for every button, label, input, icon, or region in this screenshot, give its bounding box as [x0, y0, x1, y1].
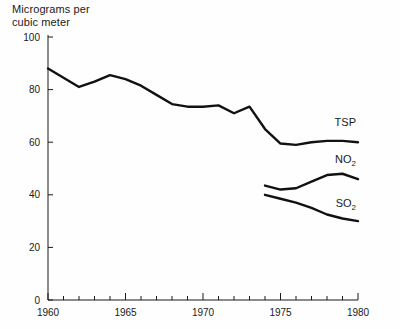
y-tick-label: 80 [29, 84, 41, 95]
series-line-tsp [48, 69, 358, 145]
axes-group [48, 35, 358, 300]
x-axis-tick-labels: 19601965197019751980 [37, 307, 370, 318]
pollutant-trend-chart: Micrograms per cubic meter 020406080100 … [0, 0, 400, 329]
x-axis-ticks [48, 293, 358, 300]
y-tick-label: 20 [29, 242, 41, 253]
y-tick-label: 40 [29, 189, 41, 200]
y-tick-label: 0 [34, 295, 40, 306]
y-axis-ticks [48, 37, 53, 300]
y-tick-label: 100 [23, 32, 40, 43]
y-axis-tick-labels: 020406080100 [23, 32, 40, 306]
series-labels-group: TSPNO2SO2 [335, 116, 357, 212]
y-tick-label: 60 [29, 137, 41, 148]
series-label-tsp: TSP [335, 116, 356, 128]
x-tick-label: 1965 [114, 307, 137, 318]
chart-canvas: 020406080100 19601965197019751980 TSPNO2… [0, 0, 400, 329]
series-lines-group [48, 69, 358, 222]
x-tick-label: 1970 [192, 307, 215, 318]
x-tick-label: 1975 [269, 307, 292, 318]
x-tick-label: 1980 [347, 307, 370, 318]
series-label-no2: NO2 [335, 153, 357, 168]
series-line-no2 [265, 174, 358, 190]
x-tick-label: 1960 [37, 307, 60, 318]
series-label-so2: SO2 [336, 197, 357, 212]
